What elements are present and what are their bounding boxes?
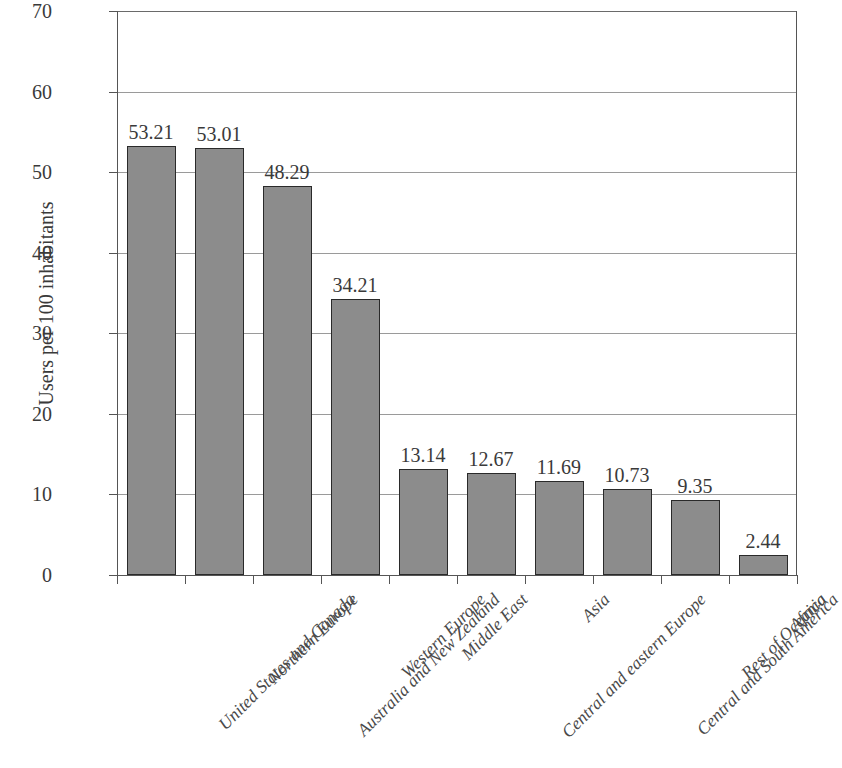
y-axis-line xyxy=(117,11,118,576)
bar xyxy=(603,489,652,575)
gridline xyxy=(117,92,797,93)
x-axis-tick xyxy=(593,575,594,584)
bar-value-label: 48.29 xyxy=(242,162,332,182)
bar-value-label: 53.01 xyxy=(174,124,264,144)
x-axis-category-label: Northern Europe xyxy=(264,590,361,687)
bar xyxy=(263,186,312,575)
bar-value-label: 9.35 xyxy=(650,476,740,496)
x-axis-tick xyxy=(525,575,526,584)
bar-value-label: 34.21 xyxy=(310,275,400,295)
x-axis-tick xyxy=(117,575,118,584)
bar xyxy=(671,500,720,575)
y-axis-tick-label: 0 xyxy=(6,565,52,585)
bar xyxy=(739,555,788,575)
y-axis-tick-label: 20 xyxy=(6,404,52,424)
x-axis-tick xyxy=(797,575,798,584)
y-axis-tick-label: 30 xyxy=(6,323,52,343)
x-axis-tick xyxy=(253,575,254,584)
y-axis-tick-label: 50 xyxy=(6,162,52,182)
y-axis-tick-label: 40 xyxy=(6,243,52,263)
x-axis-tick xyxy=(729,575,730,584)
y-axis-tick-label: 10 xyxy=(6,484,52,504)
x-axis-tick xyxy=(457,575,458,584)
y-axis-tick-label: 70 xyxy=(6,1,52,21)
bar xyxy=(127,146,176,575)
bar xyxy=(331,299,380,575)
bar xyxy=(399,469,448,575)
plot-right-border xyxy=(796,11,797,576)
x-axis-category-label: Asia xyxy=(578,590,613,625)
bar xyxy=(195,148,244,575)
x-axis-tick xyxy=(661,575,662,584)
x-axis-tick xyxy=(389,575,390,584)
x-axis-tick xyxy=(321,575,322,584)
bar xyxy=(467,473,516,575)
x-axis-tick xyxy=(185,575,186,584)
y-axis-tick-label: 60 xyxy=(6,82,52,102)
gridline xyxy=(117,11,797,12)
bar-value-label: 2.44 xyxy=(718,531,808,551)
bar xyxy=(535,481,584,575)
